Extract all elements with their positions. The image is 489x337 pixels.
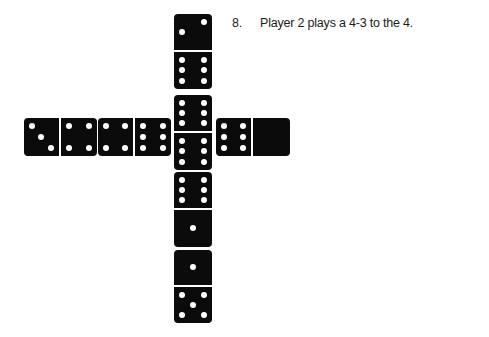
pip [201, 67, 207, 73]
pip-group [216, 118, 251, 156]
pip [221, 145, 227, 151]
pip [190, 225, 196, 231]
pip [201, 138, 207, 144]
pip [201, 292, 207, 298]
pip [48, 145, 54, 151]
domino-half [216, 118, 253, 156]
pip [103, 123, 109, 129]
pip-group [174, 210, 212, 248]
pip [201, 78, 207, 84]
pip [140, 134, 146, 140]
pip [66, 123, 72, 129]
pip [240, 134, 246, 140]
pip [160, 145, 166, 151]
pip [86, 123, 92, 129]
pip-group [174, 95, 212, 131]
domino-tile [174, 172, 212, 247]
pip-group [174, 133, 212, 171]
pip-group [24, 118, 59, 156]
pip [122, 145, 128, 151]
pip-group [61, 118, 98, 156]
domino-half [135, 118, 172, 156]
pip [179, 138, 185, 144]
domino-half [61, 118, 98, 156]
pip [179, 110, 185, 116]
domino-half [98, 118, 135, 156]
pip [201, 57, 207, 63]
pip [29, 123, 35, 129]
domino-diagram: 8.Player 2 plays a 4-3 to the 4. [0, 0, 489, 337]
domino-half [174, 14, 212, 52]
pip [201, 148, 207, 154]
caption-number: 8. [232, 16, 260, 30]
pip-group [174, 172, 212, 208]
pip [179, 57, 185, 63]
pip [140, 123, 146, 129]
pip [201, 197, 207, 203]
pip-group [174, 287, 212, 324]
pip-group [174, 52, 212, 90]
pip-group [253, 118, 290, 156]
pip [179, 120, 185, 126]
pip [179, 148, 185, 154]
pip-group [174, 14, 212, 50]
pip [86, 145, 92, 151]
pip [201, 100, 207, 106]
pip [179, 29, 185, 35]
pip [66, 145, 72, 151]
domino-half [253, 118, 290, 156]
pip [179, 67, 185, 73]
pip [201, 120, 207, 126]
pip [201, 159, 207, 165]
domino-half [174, 95, 212, 133]
pip [190, 302, 196, 308]
caption-text: Player 2 plays a 4-3 to the 4. [260, 16, 413, 30]
caption: 8.Player 2 plays a 4-3 to the 4. [232, 16, 482, 30]
pip [140, 145, 146, 151]
domino-half [174, 287, 212, 324]
pip [179, 312, 185, 318]
domino-tile [216, 118, 290, 156]
pip [38, 134, 44, 140]
domino-half [174, 133, 212, 171]
pip [221, 134, 227, 140]
pip [240, 123, 246, 129]
domino-tile [98, 118, 171, 156]
pip [103, 145, 109, 151]
domino-half [174, 210, 212, 248]
domino-tile [24, 118, 97, 156]
pip-group [135, 118, 172, 156]
pip [201, 312, 207, 318]
domino-half [174, 250, 212, 287]
domino-half [174, 172, 212, 210]
pip [122, 123, 128, 129]
pip [179, 159, 185, 165]
domino-half [174, 52, 212, 90]
pip [179, 187, 185, 193]
domino-tile [174, 14, 212, 89]
pip [201, 177, 207, 183]
pip [221, 123, 227, 129]
domino-tile [174, 250, 212, 323]
pip [190, 264, 196, 270]
pip [179, 100, 185, 106]
pip [201, 110, 207, 116]
domino-half [24, 118, 61, 156]
domino-tile [174, 95, 212, 170]
pip [240, 145, 246, 151]
pip [201, 19, 207, 25]
pip [179, 177, 185, 183]
pip [160, 134, 166, 140]
pip-group [174, 250, 212, 285]
pip-group [98, 118, 133, 156]
pip [179, 292, 185, 298]
pip [201, 187, 207, 193]
pip [179, 78, 185, 84]
pip [179, 197, 185, 203]
pip [160, 123, 166, 129]
